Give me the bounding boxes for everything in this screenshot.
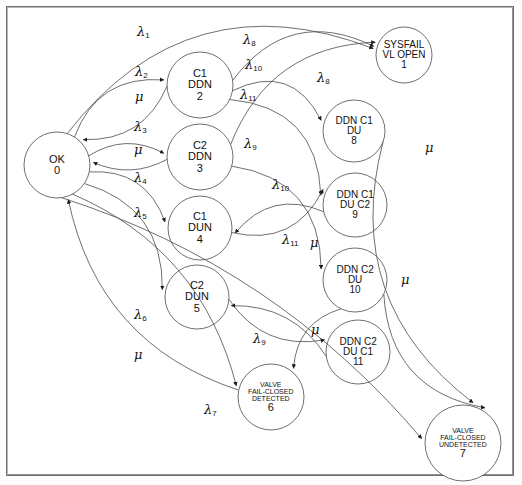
- diagram-canvas: [0, 0, 522, 485]
- state-c1-ddn-2-circle[interactable]: [167, 52, 233, 118]
- edge-0-to-2-lambda2: [75, 80, 164, 137]
- edge-2-to-1-lambda8: [233, 32, 374, 81]
- edge-10-to-7-mu: [384, 294, 485, 408]
- edge-2-to-9-lambda11: [230, 100, 321, 196]
- state-ddn-c2-du-c1-11-circle[interactable]: [326, 320, 390, 384]
- edge-3-to-10-lambda9: [232, 166, 322, 269]
- edge-3-to-0-mu: [93, 159, 167, 170]
- edge-0-to-4-lambda4: [89, 172, 165, 222]
- state-valve-fail-closed-undetected-7-circle[interactable]: [425, 405, 501, 481]
- edge-2-to-0-mu: [83, 86, 167, 139]
- state-ok-0-circle[interactable]: [24, 132, 90, 198]
- state-c1-dun-4-circle[interactable]: [168, 196, 232, 260]
- state-ddn-c2-du-10-circle[interactable]: [323, 248, 387, 312]
- state-valve-fail-closed-detected-6-circle[interactable]: [238, 364, 304, 430]
- edge-4-to-9-lambda10: [232, 189, 323, 235]
- edge-0-to-5-lambda5: [84, 184, 162, 290]
- state-ddn-c1-du-c2-9-circle[interactable]: [323, 173, 387, 237]
- state-ddn-c1-du-8-circle[interactable]: [323, 100, 385, 162]
- state-c2-dun-5-circle[interactable]: [165, 265, 229, 329]
- diagram-page: OK0SYSFAILVL OPEN1C1DDN2C2DDN3C1DUN4C2DU…: [0, 0, 522, 485]
- state-sysfail-vl-open-1-circle[interactable]: [376, 27, 432, 83]
- edge-9-to-4-mu: [235, 204, 324, 233]
- edge-0-to-3-lambda3: [89, 144, 164, 156]
- nodes-layer: [24, 27, 501, 481]
- state-c2-ddn-3-circle[interactable]: [167, 124, 233, 190]
